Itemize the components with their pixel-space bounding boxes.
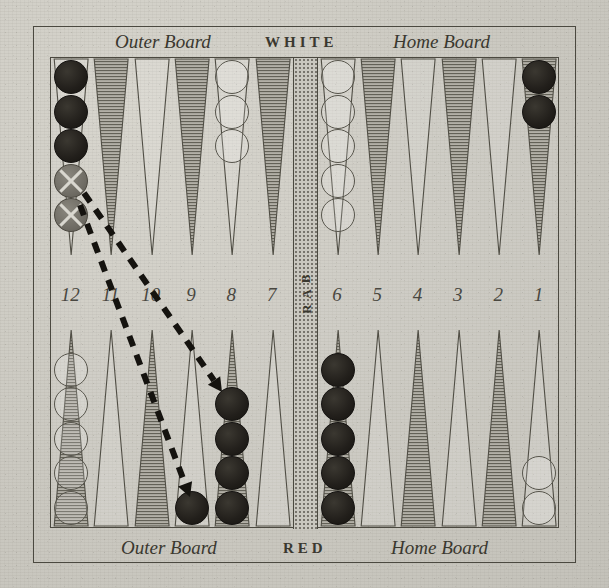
top-point-11[interactable] xyxy=(91,58,131,257)
bottom-point-2[interactable] xyxy=(479,328,519,527)
checker[interactable] xyxy=(321,491,355,525)
bottom-home-board-label: Home Board xyxy=(391,537,488,559)
checker[interactable] xyxy=(321,387,355,421)
point-number-8: 8 xyxy=(211,278,251,312)
point-number-10: 10 xyxy=(131,278,171,312)
bottom-player-label: RED xyxy=(283,540,327,557)
top-caption-row: Outer Board WHITE Home Board xyxy=(33,28,576,56)
checker[interactable] xyxy=(522,95,556,129)
checker[interactable] xyxy=(54,491,88,525)
checker[interactable] xyxy=(321,95,355,129)
checker[interactable] xyxy=(321,164,355,198)
top-point-4[interactable] xyxy=(398,58,438,257)
checker[interactable] xyxy=(54,353,88,387)
checker[interactable] xyxy=(321,353,355,387)
top-outer-board-label: Outer Board xyxy=(115,31,211,53)
point-number-12: 12 xyxy=(50,278,90,312)
bottom-point-10[interactable] xyxy=(132,328,172,527)
bottom-point-5[interactable] xyxy=(358,328,398,527)
point-number-9: 9 xyxy=(171,278,211,312)
top-point-3[interactable] xyxy=(439,58,479,257)
top-point-2[interactable] xyxy=(479,58,519,257)
point-number-5: 5 xyxy=(357,278,397,312)
checker[interactable] xyxy=(54,95,88,129)
top-home-board-label: Home Board xyxy=(393,31,490,53)
bottom-point-4[interactable] xyxy=(398,328,438,527)
point-number-7: 7 xyxy=(252,278,292,312)
top-point-7[interactable] xyxy=(253,58,293,257)
bottom-point-11[interactable] xyxy=(91,328,131,527)
point-number-6: 6 xyxy=(317,278,357,312)
point-number-3: 3 xyxy=(438,278,478,312)
point-number-11: 11 xyxy=(90,278,130,312)
checker[interactable] xyxy=(175,491,209,525)
checker[interactable] xyxy=(321,422,355,456)
checker[interactable] xyxy=(321,60,355,94)
point-number-strip: 121110987654321 xyxy=(50,278,559,312)
bottom-caption-row: Outer Board RED Home Board xyxy=(33,534,576,562)
checker[interactable] xyxy=(54,422,88,456)
bottom-point-3[interactable] xyxy=(439,328,479,527)
point-number-2: 2 xyxy=(478,278,518,312)
point-number-1: 1 xyxy=(518,278,558,312)
bottom-outer-board-label: Outer Board xyxy=(121,537,217,559)
top-point-10[interactable] xyxy=(132,58,172,257)
checker[interactable] xyxy=(321,129,355,163)
bottom-point-7[interactable] xyxy=(253,328,293,527)
checker[interactable] xyxy=(215,422,249,456)
top-point-5[interactable] xyxy=(358,58,398,257)
point-number-4: 4 xyxy=(397,278,437,312)
checker[interactable] xyxy=(54,164,88,198)
top-point-9[interactable] xyxy=(172,58,212,257)
top-player-label: WHITE xyxy=(265,34,338,51)
checker[interactable] xyxy=(54,60,88,94)
checker[interactable] xyxy=(215,95,249,129)
